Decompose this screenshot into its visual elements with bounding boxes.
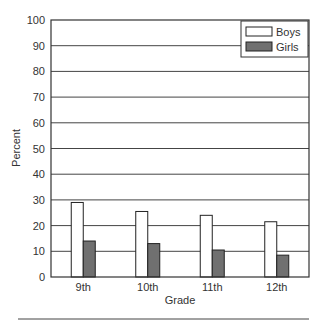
- bar-girls: [277, 255, 289, 277]
- y-tick-label: 80: [33, 65, 45, 77]
- bar-boys: [71, 202, 83, 277]
- bars: [71, 202, 289, 277]
- y-axis-ticks: 0102030405060708090100: [27, 14, 45, 283]
- y-axis-label: Percent: [10, 129, 22, 167]
- y-tick-label: 60: [33, 117, 45, 129]
- y-tick-label: 40: [33, 168, 45, 180]
- bar-chart: 0102030405060708090100 9th10th11th12th P…: [0, 0, 324, 320]
- x-axis-ticks: 9th10th11th12th: [76, 281, 288, 293]
- x-axis-label: Grade: [165, 294, 196, 306]
- y-tick-label: 70: [33, 91, 45, 103]
- legend: BoysGirls: [241, 21, 308, 57]
- y-tick-label: 50: [33, 143, 45, 155]
- legend-label-girls: Girls: [276, 41, 299, 53]
- bar-boys: [200, 215, 212, 277]
- x-tick-label: 9th: [76, 281, 91, 293]
- bar-boys: [265, 222, 277, 277]
- x-tick-label: 10th: [137, 281, 158, 293]
- x-tick-label: 12th: [266, 281, 287, 293]
- y-tick-label: 30: [33, 194, 45, 206]
- y-tick-label: 20: [33, 220, 45, 232]
- y-tick-label: 100: [27, 14, 45, 26]
- y-tick-label: 90: [33, 40, 45, 52]
- legend-swatch-girls: [246, 42, 272, 51]
- x-tick-label: 11th: [202, 281, 223, 293]
- gridlines: [51, 46, 309, 252]
- legend-swatch-boys: [246, 27, 272, 36]
- y-tick-label: 10: [33, 245, 45, 257]
- bar-girls: [83, 241, 95, 277]
- bar-boys: [136, 211, 148, 277]
- bar-girls: [212, 250, 224, 277]
- legend-label-boys: Boys: [276, 26, 301, 38]
- bar-girls: [148, 244, 160, 277]
- y-tick-label: 0: [39, 271, 45, 283]
